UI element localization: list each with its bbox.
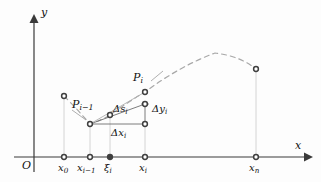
y-axis-label: y — [41, 7, 47, 18]
x-axis-label: x — [295, 140, 301, 151]
x-axis-arrowhead — [304, 153, 313, 162]
tick-marker-xn — [254, 155, 259, 160]
tick-marker-xi-1 — [88, 155, 93, 160]
point-x0-curve — [62, 94, 67, 99]
point-p-prev — [88, 122, 93, 127]
point-corner-base — [143, 122, 148, 127]
diagram-canvas — [0, 0, 321, 182]
point-label-p-prev: Pi−1 — [72, 99, 94, 112]
leader-line-p-curr — [151, 71, 163, 81]
tick-label-xi-sample: ξi — [104, 163, 112, 174]
arc-length-diagram: y x O x0 xi−1 ξi xi xn Pi−1 Pi Δsi Δyi Δ… — [0, 0, 321, 182]
tick-label-xi: xi — [139, 163, 147, 174]
tick-marker-xi — [143, 155, 148, 160]
tick-marker-x0 — [62, 155, 67, 160]
tick-label-xn: xn — [249, 163, 259, 174]
data-points — [62, 67, 259, 127]
tick-marker-xii — [108, 155, 113, 160]
tick-label-x0: x0 — [58, 163, 68, 174]
point-xi-sample — [108, 113, 113, 118]
point-corner-top — [143, 102, 148, 107]
delta-x-label: Δxi — [111, 128, 126, 139]
point-xn-curve — [254, 67, 259, 72]
origin-label: O — [22, 160, 31, 171]
delta-s-label: Δsi — [113, 104, 128, 115]
y-axis-arrowhead — [30, 14, 39, 23]
tick-label-xi-1: xi−1 — [77, 163, 96, 174]
point-label-p-curr: Pi — [133, 72, 143, 85]
point-p-curr — [143, 90, 148, 95]
delta-y-label: Δyi — [152, 104, 167, 115]
